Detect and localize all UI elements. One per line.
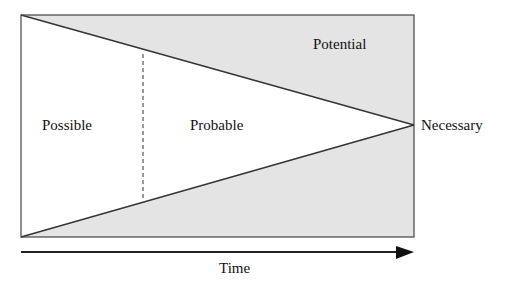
label-probable: Probable xyxy=(190,117,244,133)
label-time: Time xyxy=(219,260,250,276)
label-possible: Possible xyxy=(42,117,92,133)
label-necessary: Necessary xyxy=(421,117,483,133)
label-potential: Potential xyxy=(313,36,366,52)
futures-cone-diagram: Possible Probable Potential Necessary Ti… xyxy=(0,0,508,288)
arrow-head-icon xyxy=(396,246,414,259)
